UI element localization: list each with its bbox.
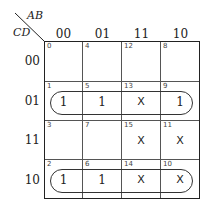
cell-12: 12 [122, 42, 161, 82]
cell-index: 9 [163, 82, 167, 90]
cell-index: 15 [124, 121, 133, 129]
col-header-01: 01 [83, 27, 122, 41]
cell-15: 15X [122, 121, 161, 160]
col-header-11: 11 [122, 27, 161, 41]
cell-value: X [122, 134, 160, 147]
cell-index: 12 [124, 42, 133, 50]
cell-3: 3 [45, 121, 83, 160]
row-header-00: 00 [10, 54, 40, 68]
row-header-01: 01 [10, 94, 40, 108]
cell-index: 4 [85, 42, 89, 50]
row-variable-label: CD [13, 26, 30, 39]
group-loop-row-01 [50, 91, 193, 115]
cell-index: 0 [47, 42, 51, 50]
row-header-11: 11 [10, 133, 40, 147]
karnaugh-grid: 0 4 12 8 11 51 13X 91 3 7 15X 11X 21 61 … [44, 41, 200, 199]
cell-index: 8 [163, 42, 167, 50]
cell-index: 1 [47, 82, 51, 90]
cell-index: 11 [163, 121, 172, 129]
cell-index: 6 [85, 160, 89, 168]
group-loop-row-10 [50, 169, 193, 193]
cell-0: 0 [45, 42, 83, 82]
cell-index: 10 [163, 160, 172, 168]
col-header-10: 10 [161, 27, 200, 41]
column-variable-label: AB [27, 9, 43, 22]
cell-index: 7 [85, 121, 89, 129]
cell-index: 3 [47, 121, 51, 129]
cell-value: X [161, 134, 199, 147]
row-header-10: 10 [10, 173, 40, 187]
cell-4: 4 [83, 42, 122, 82]
cell-7: 7 [83, 121, 122, 160]
cell-index: 2 [47, 160, 51, 168]
col-header-00: 00 [44, 27, 83, 41]
cell-11: 11X [161, 121, 199, 160]
cell-index: 13 [124, 82, 133, 90]
cell-index: 5 [85, 82, 89, 90]
cell-8: 8 [161, 42, 199, 82]
cell-index: 14 [124, 160, 133, 168]
